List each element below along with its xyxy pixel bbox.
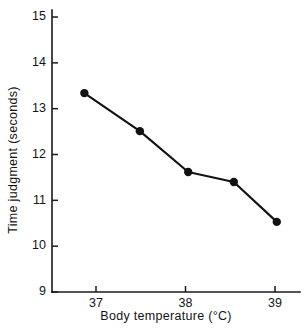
y-tick-label-14: 14	[32, 55, 46, 69]
y-tick-label-12: 12	[32, 147, 46, 161]
y-axis-title: Time judgment (seconds)	[6, 86, 20, 233]
data-point-4	[230, 178, 238, 186]
chart-figure: 9101112131415373839 Body temperature (°C…	[0, 0, 305, 328]
x-tick-label-38: 38	[179, 296, 193, 310]
data-point-3	[184, 168, 192, 176]
data-point-5	[273, 218, 281, 226]
series-polyline-time-judgment	[84, 93, 276, 222]
data-point-2	[136, 127, 144, 135]
y-tick-label-9: 9	[39, 284, 46, 298]
axes	[52, 10, 300, 292]
data-series-line	[84, 93, 276, 222]
y-tick-label-15: 15	[32, 9, 46, 23]
data-point-1	[80, 89, 88, 97]
data-point-markers	[80, 89, 281, 226]
line-chart-canvas: 9101112131415373839 Body temperature (°C…	[0, 0, 305, 328]
axis-ticks	[52, 17, 275, 292]
y-tick-label-11: 11	[33, 193, 46, 207]
x-axis-title: Body temperature (°C)	[100, 309, 231, 323]
y-tick-label-13: 13	[32, 101, 46, 115]
axis-tick-labels: 9101112131415373839	[32, 9, 282, 309]
x-tick-label-39: 39	[268, 296, 282, 310]
x-tick-label-37: 37	[89, 296, 103, 310]
y-tick-label-10: 10	[32, 238, 46, 252]
